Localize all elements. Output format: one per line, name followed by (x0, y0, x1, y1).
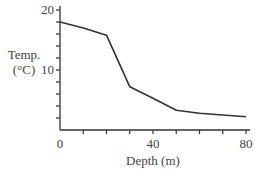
x-tick-0: 0 (57, 136, 64, 151)
temperature-line (60, 22, 246, 117)
x-tick-40: 40 (147, 136, 160, 151)
y-axis-label-line1: Temp. (8, 47, 41, 62)
y-axis-label-line2: (°C) (13, 62, 36, 77)
line-chart: 0 40 80 20 10 Temp. (°C) Depth (m) (0, 0, 256, 175)
axes (60, 6, 250, 130)
y-tick-10: 10 (41, 62, 54, 77)
x-tick-80: 80 (240, 136, 253, 151)
x-axis-label: Depth (m) (126, 153, 180, 168)
y-tick-20: 20 (41, 2, 54, 17)
